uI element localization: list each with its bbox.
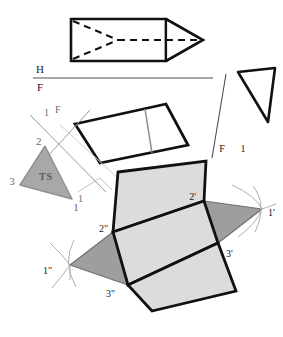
aux-label-two: 2 [36,135,42,147]
dev-label-three-dprime: 3" [106,288,115,299]
ts-label-three: 3 [9,175,15,187]
drawing-canvas: H F F 1 1 F 2 TS 3 1 [0,0,283,337]
hf-label-h: H [36,63,44,75]
ts-label: TS [39,171,53,182]
right-label-one: 1 [241,143,246,154]
aux-label-one-top: 1 [44,107,49,118]
aux-label-f: F [55,104,61,115]
dev-label-one-mid: 1 [78,193,83,204]
dev-label-one-dprime: 1" [43,265,52,276]
dev-label-three-prime: 3' [226,248,233,259]
right-label-f: F [219,143,225,154]
dev-label-two-prime: 2' [189,191,196,202]
dev-label-two-dprime: 2" [99,223,108,234]
technical-drawing-svg: H F F 1 1 F 2 TS 3 1 [0,0,283,337]
dev-label-one-prime: 1' [268,207,275,218]
hf-label-f: F [37,81,43,93]
